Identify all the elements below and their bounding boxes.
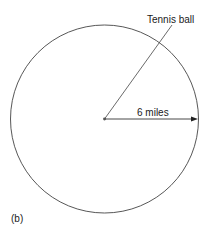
pointer-label: Tennis ball xyxy=(147,14,194,25)
circle-diagram: Tennis ball 6 miles (b) xyxy=(0,0,209,234)
panel-label: (b) xyxy=(11,213,23,224)
pointer-line xyxy=(105,25,173,119)
arrowhead-icon xyxy=(191,117,198,122)
radius-label: 6 miles xyxy=(137,107,169,118)
